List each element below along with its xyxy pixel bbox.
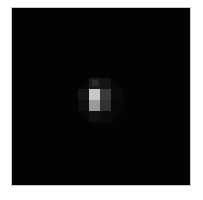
source-region xyxy=(11,7,191,186)
intensity-field xyxy=(11,7,191,186)
faint-left-wing xyxy=(78,89,89,100)
figure-canvas xyxy=(0,0,203,200)
faint-right-wing xyxy=(111,89,122,100)
faint-below-left xyxy=(89,111,100,122)
faint-left-lower xyxy=(78,100,89,111)
source-dark-bottom-right xyxy=(100,100,111,111)
faint-below-right xyxy=(100,111,111,122)
source-bright-top-left xyxy=(89,89,100,100)
faint-cap-above-right xyxy=(100,78,111,89)
source-mid-bottom-left xyxy=(89,100,100,111)
faint-right-lower xyxy=(111,100,122,111)
source-dark-top-right xyxy=(100,89,111,100)
faint-inner-notch xyxy=(92,80,98,86)
